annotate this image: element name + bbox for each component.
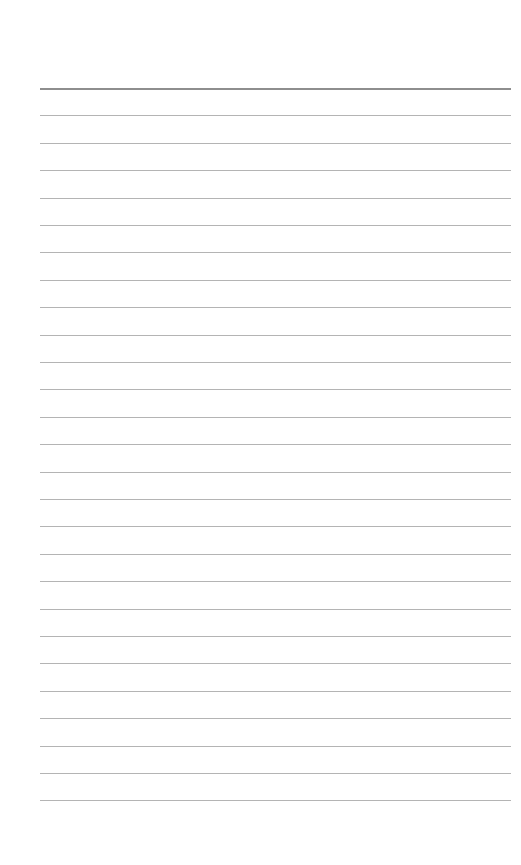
ruled-line xyxy=(40,581,511,582)
ruled-line xyxy=(40,198,511,199)
ruled-line xyxy=(40,773,511,774)
ruled-line xyxy=(40,225,511,226)
ruled-line xyxy=(40,554,511,555)
ruled-line xyxy=(40,691,511,692)
ruled-line xyxy=(40,800,511,801)
lined-paper-page xyxy=(0,0,521,865)
ruled-line xyxy=(40,417,511,418)
ruled-line xyxy=(40,170,511,171)
ruled-line xyxy=(40,280,511,281)
ruled-line xyxy=(40,307,511,308)
ruled-line xyxy=(40,115,511,116)
header-rule-line xyxy=(40,88,511,90)
ruled-line xyxy=(40,746,511,747)
ruled-line xyxy=(40,526,511,527)
ruled-line xyxy=(40,143,511,144)
ruled-line xyxy=(40,444,511,445)
ruled-line xyxy=(40,663,511,664)
ruled-line xyxy=(40,362,511,363)
ruled-line xyxy=(40,252,511,253)
ruled-line xyxy=(40,472,511,473)
ruled-line xyxy=(40,636,511,637)
ruled-line xyxy=(40,718,511,719)
ruled-line xyxy=(40,389,511,390)
ruled-line xyxy=(40,609,511,610)
ruled-line xyxy=(40,499,511,500)
ruled-line xyxy=(40,335,511,336)
